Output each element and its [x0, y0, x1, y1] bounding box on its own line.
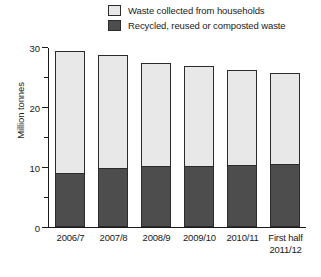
bar-group: [227, 48, 257, 227]
light-swatch-icon: [108, 5, 121, 16]
bar-stack: [227, 70, 257, 227]
y-tick-label: 10: [29, 163, 40, 174]
y-axis-title: Million tonnes: [15, 56, 26, 166]
bar-segment-waste-collected: [142, 64, 170, 166]
legend-item-label: Waste collected from households: [128, 5, 264, 16]
x-axis-category-label: 2007/8: [92, 232, 135, 255]
x-axis-category-label-line: 2010/11: [221, 232, 264, 244]
bar-segment-recycled: [271, 164, 299, 226]
y-tick-label: 0: [35, 223, 40, 234]
bar-series-container: [49, 48, 306, 227]
y-tick-major: [42, 167, 48, 168]
x-axis-category-label-line: 2007/8: [92, 232, 135, 244]
bar-segment-recycled: [142, 166, 170, 226]
y-tick-major: [42, 107, 48, 108]
bar-segment-waste-collected: [185, 67, 213, 166]
x-axis-line: [48, 227, 306, 228]
y-tick-minor: [44, 197, 48, 198]
x-axis-category-label-line: First half: [264, 232, 307, 244]
x-axis-category-label-line: 2011/12: [264, 244, 307, 256]
x-axis-category-label: 2006/7: [49, 232, 92, 255]
y-tick-label: 20: [29, 103, 40, 114]
bar-group: [98, 48, 128, 227]
legend-item-recycled: Recycled, reused or composted waste: [108, 19, 286, 31]
x-axis-category-label-line: 2006/7: [49, 232, 92, 244]
x-axis-category-label: First half2011/12: [264, 232, 307, 255]
bar-segment-waste-collected: [228, 71, 256, 164]
x-axis-category-label-line: 2009/10: [178, 232, 221, 244]
dark-swatch-icon: [108, 20, 121, 31]
bar-segment-recycled: [228, 165, 256, 226]
y-tick-minor: [44, 77, 48, 78]
y-tick-major: [42, 47, 48, 48]
bar-stack: [55, 51, 85, 227]
bar-stack: [270, 73, 300, 227]
bar-segment-waste-collected: [56, 52, 84, 173]
legend-item-label: Recycled, reused or composted waste: [128, 20, 286, 31]
x-axis-category-labels: 2006/72007/82008/92009/102010/11First ha…: [49, 232, 307, 255]
bar-stack: [98, 55, 128, 227]
chart-legend: Waste collected from households Recycled…: [108, 4, 286, 31]
bar-group: [270, 48, 300, 227]
y-tick-minor: [44, 137, 48, 138]
stacked-bar-chart: Waste collected from households Recycled…: [0, 0, 321, 277]
x-axis-category-label-line: 2008/9: [135, 232, 178, 244]
bar-segment-waste-collected: [271, 74, 299, 164]
bar-stack: [184, 66, 214, 227]
bar-segment-waste-collected: [99, 56, 127, 168]
y-tick-label: 30: [29, 43, 40, 54]
bar-group: [141, 48, 171, 227]
bar-group: [55, 48, 85, 227]
bar-group: [184, 48, 214, 227]
bar-segment-recycled: [56, 173, 84, 226]
bar-stack: [141, 63, 171, 227]
bar-segment-recycled: [99, 168, 127, 226]
legend-item-waste-collected: Waste collected from households: [108, 4, 286, 16]
x-axis-category-label: 2009/10: [178, 232, 221, 255]
x-axis-category-label: 2010/11: [221, 232, 264, 255]
plot-area: 0102030: [48, 48, 306, 228]
x-axis-category-label: 2008/9: [135, 232, 178, 255]
bar-segment-recycled: [185, 166, 213, 226]
y-tick-major: [42, 227, 48, 228]
